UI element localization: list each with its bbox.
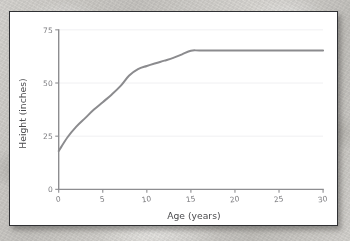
- y-tick-label-50: 50: [43, 79, 53, 88]
- x-tick-label-0: 0: [55, 194, 61, 204]
- y-tick-group: 0255075: [43, 26, 59, 194]
- axes-group: [59, 30, 323, 190]
- x-tick-label-15: 15: [185, 194, 196, 204]
- image-canvas: 0255075 051015202530 Age (years) Height …: [0, 0, 350, 241]
- chart-plot-area: 0255075 051015202530 Age (years) Height …: [10, 12, 337, 225]
- x-tick-label-30: 30: [317, 194, 328, 204]
- x-tick-label-10: 10: [141, 194, 152, 204]
- chart-page: 0255075 051015202530 Age (years) Height …: [9, 11, 338, 226]
- y-tick-label-25: 25: [43, 132, 53, 141]
- x-tick-label-5: 5: [99, 194, 105, 204]
- x-axis-title: Age (years): [167, 210, 220, 221]
- y-axis-title: Height (inches): [17, 78, 28, 148]
- height-vs-age-line-chart: 0255075 051015202530 Age (years) Height …: [10, 12, 337, 225]
- x-tick-label-25: 25: [273, 194, 284, 204]
- x-tick-group: 051015202530: [55, 189, 328, 204]
- x-tick-label-20: 20: [229, 194, 240, 204]
- gridlines-group: [59, 30, 323, 136]
- y-tick-label-0: 0: [48, 185, 53, 194]
- y-tick-label-75: 75: [43, 26, 53, 35]
